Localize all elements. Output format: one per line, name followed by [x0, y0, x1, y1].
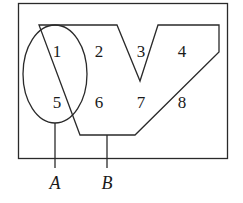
region-6-label: 6	[95, 93, 104, 112]
region-4-label: 4	[178, 42, 187, 61]
set-b-polygon	[39, 25, 219, 135]
set-b-label: B	[102, 173, 113, 193]
region-2-label: 2	[95, 42, 104, 61]
region-7-label: 7	[137, 93, 146, 112]
set-a-label: A	[49, 173, 62, 193]
region-1-label: 1	[53, 42, 62, 61]
region-8-label: 8	[178, 93, 187, 112]
region-5-label: 5	[53, 93, 62, 112]
region-3-label: 3	[137, 42, 146, 61]
set-diagram: 1 2 3 4 5 6 7 8 A B	[0, 0, 243, 203]
